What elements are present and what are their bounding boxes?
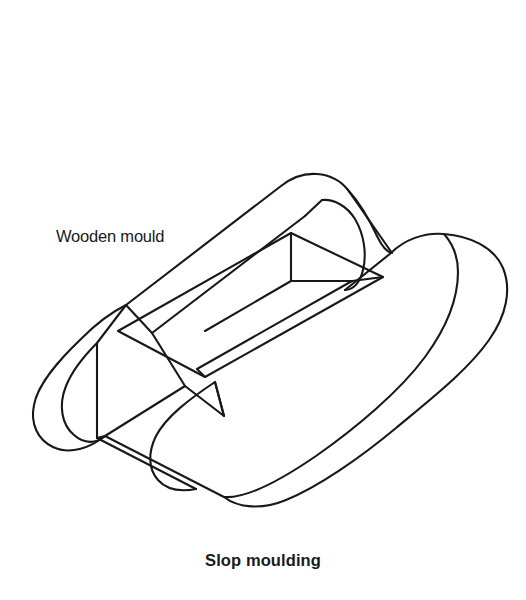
frame-top-inner-back-edge	[152, 216, 305, 333]
front-rail-lower-silhouette	[150, 382, 224, 490]
figure-caption: Slop moulding	[0, 551, 526, 570]
back-rail-inner-end-line	[305, 200, 322, 216]
figure-page: Wooden mould Slop moulding	[0, 0, 526, 600]
mould-line-art	[33, 174, 507, 507]
left-handle-outer	[33, 305, 126, 450]
slop-moulding-illustration	[0, 0, 526, 600]
frame-top-front-rail-outer	[105, 436, 224, 497]
left-corner-front-face-edge	[97, 438, 196, 489]
back-rail-end-cap	[322, 200, 365, 290]
annotation-wooden-mould: Wooden mould	[56, 227, 164, 246]
